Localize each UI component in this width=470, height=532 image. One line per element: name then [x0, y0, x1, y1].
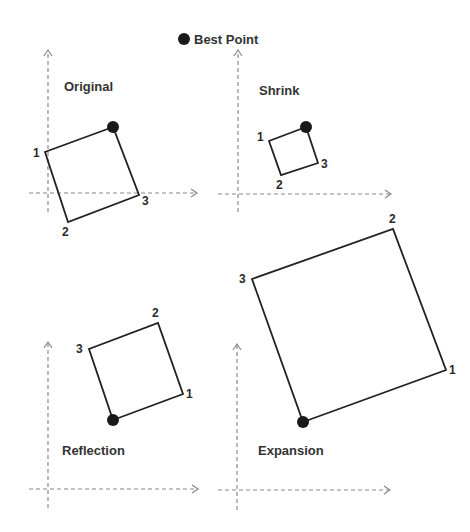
panel-title: Expansion	[258, 443, 324, 458]
simplex-shape	[269, 127, 318, 175]
best-point-marker	[107, 121, 119, 133]
vertex-label: 1	[257, 130, 264, 144]
panels: 123Original123Shrink123Reflection123Expa…	[29, 50, 456, 510]
panel-reflection: 123Reflection	[29, 306, 198, 508]
best-point-marker	[107, 414, 119, 426]
panel-expansion: 123Expansion	[218, 212, 456, 510]
panel-title: Reflection	[62, 443, 125, 458]
legend-label: Best Point	[194, 32, 259, 47]
vertex-label: 3	[76, 342, 83, 356]
best-point-legend-marker	[178, 33, 190, 45]
vertex-label: 1	[33, 146, 40, 160]
vertex-label: 2	[62, 225, 69, 239]
simplex-shape	[252, 229, 446, 422]
vertex-label: 1	[186, 387, 193, 401]
legend: Best Point	[178, 32, 259, 47]
panel-shrink: 123Shrink	[218, 50, 391, 212]
best-point-marker	[300, 121, 312, 133]
vertex-label: 2	[152, 306, 159, 320]
best-point-marker	[297, 416, 309, 428]
vertex-label: 3	[239, 272, 246, 286]
vertex-label: 2	[389, 212, 396, 226]
vertex-label: 3	[142, 194, 149, 208]
panel-title: Original	[64, 79, 113, 94]
vertex-label: 1	[449, 363, 456, 377]
vertex-label: 3	[321, 157, 328, 171]
simplex-operations-diagram: Best Point 123Original123Shrink123Reflec…	[0, 0, 470, 532]
panel-title: Shrink	[259, 83, 300, 98]
simplex-shape	[89, 323, 183, 420]
simplex-shape	[45, 127, 139, 222]
panel-original: 123Original	[29, 50, 197, 239]
vertex-label: 2	[276, 178, 283, 192]
